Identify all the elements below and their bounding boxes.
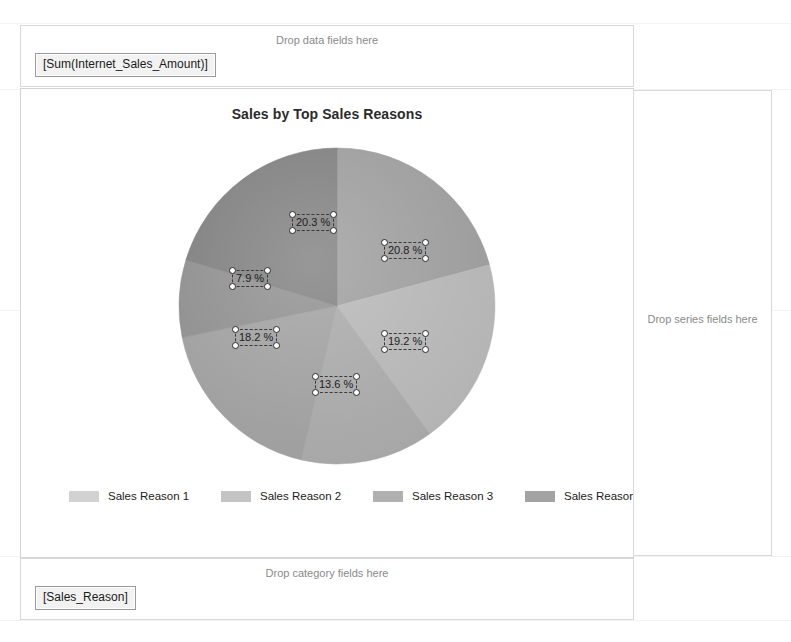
- background-rule-bottom: [0, 620, 791, 621]
- legend-label: Sales Reason 2: [260, 490, 341, 503]
- data-fields-drop-hint: Drop data fields here: [21, 34, 633, 47]
- resize-handle-bottom-left[interactable]: [229, 283, 236, 290]
- legend-label: Sales Reason 4: [564, 490, 634, 503]
- pie-chart[interactable]: 20.3 % 20.8 % 7.9 % 18.2 %: [178, 147, 496, 465]
- data-label-text: 18.2 %: [239, 331, 273, 343]
- data-label-slice-2[interactable]: 19.2 %: [384, 333, 426, 350]
- legend-item[interactable]: Sales Reason 2: [221, 487, 373, 506]
- category-field-chip-container: [Sales_Reason]: [35, 586, 136, 610]
- data-field-chip[interactable]: [Sum(Internet_Sales_Amount)]: [35, 53, 216, 77]
- series-fields-dropzone[interactable]: Drop series fields here: [633, 90, 772, 556]
- legend-swatch: [525, 491, 555, 502]
- data-label-text: 20.3 %: [296, 216, 330, 228]
- resize-handle-bottom-left[interactable]: [381, 346, 388, 353]
- legend-item[interactable]: Sales Reason 1: [69, 487, 221, 506]
- chart-panel[interactable]: Sales by Top Sales Reasons 20.3 % 20.8 %: [20, 88, 634, 558]
- resize-handle-top-left[interactable]: [232, 326, 239, 333]
- resize-handle-top-left[interactable]: [312, 373, 319, 380]
- data-label-slice-4[interactable]: 18.2 %: [235, 329, 277, 346]
- resize-handle-bottom-left[interactable]: [312, 389, 319, 396]
- legend-label: Sales Reason 3: [412, 490, 493, 503]
- data-field-chip-container: [Sum(Internet_Sales_Amount)]: [35, 53, 216, 77]
- category-field-chip[interactable]: [Sales_Reason]: [35, 586, 136, 610]
- data-label-text: 13.6 %: [319, 378, 353, 390]
- legend-swatch: [373, 491, 403, 502]
- data-label-slice-1[interactable]: 20.8 %: [384, 242, 426, 259]
- data-fields-dropzone[interactable]: Drop data fields here [Sum(Internet_Sale…: [20, 25, 634, 87]
- chart-legend: Sales Reason 1Sales Reason 2Sales Reason…: [69, 487, 629, 506]
- resize-handle-bottom-left[interactable]: [289, 227, 296, 234]
- resize-handle-top-left[interactable]: [381, 239, 388, 246]
- category-fields-drop-hint: Drop category fields here: [21, 567, 633, 580]
- data-label-slice-6[interactable]: 20.3 %: [292, 214, 334, 231]
- resize-handle-top-left[interactable]: [289, 211, 296, 218]
- data-label-text: 19.2 %: [388, 335, 422, 347]
- background-rule-top: [0, 23, 791, 24]
- data-label-text: 20.8 %: [388, 244, 422, 256]
- chart-title: Sales by Top Sales Reasons: [21, 106, 633, 122]
- series-fields-drop-hint: Drop series fields here: [640, 313, 765, 326]
- legend-item[interactable]: Sales Reason 4: [525, 487, 634, 506]
- category-fields-dropzone[interactable]: Drop category fields here [Sales_Reason]: [20, 558, 634, 620]
- data-label-slice-5[interactable]: 7.9 %: [232, 270, 268, 287]
- resize-handle-top-left[interactable]: [381, 330, 388, 337]
- legend-item[interactable]: Sales Reason 3: [373, 487, 525, 506]
- resize-handle-top-left[interactable]: [229, 267, 236, 274]
- legend-label: Sales Reason 1: [108, 490, 189, 503]
- legend-swatch: [69, 491, 99, 502]
- pie-slices: [179, 148, 495, 464]
- resize-handle-bottom-left[interactable]: [381, 255, 388, 262]
- pie-chart-svg: [178, 147, 496, 465]
- data-label-slice-3[interactable]: 13.6 %: [315, 376, 357, 393]
- resize-handle-bottom-left[interactable]: [232, 342, 239, 349]
- legend-swatch: [221, 491, 251, 502]
- data-label-text: 7.9 %: [236, 272, 264, 284]
